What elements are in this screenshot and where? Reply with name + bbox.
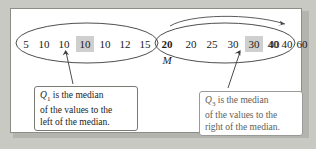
callout-q3-line2: of the values to the <box>205 110 297 122</box>
data-value-right-0: 20 <box>183 36 199 52</box>
data-value-right-6: 60 <box>294 36 310 52</box>
data-value-row: 5 10 10 10 10 12 15 20 20 25 30 30 40 40… <box>11 36 303 58</box>
callout-q3: Q3 is the median of the values to the ri… <box>199 91 303 136</box>
data-value-left-1: 10 <box>36 36 52 52</box>
callout-q3-line1: Q3 is the median <box>205 95 297 110</box>
data-value-right-2: 30 <box>225 36 241 52</box>
callout-q1: Q1 is the median of the values to the le… <box>34 86 138 131</box>
figure-panel: 5 10 10 10 10 12 15 20 20 25 30 30 40 40… <box>10 8 302 133</box>
data-value-right-4b: 40 <box>266 36 282 52</box>
median-value: 20 <box>159 36 175 52</box>
callout-q1-line3: left of the median. <box>40 117 132 129</box>
data-value-left-5: 12 <box>117 36 133 52</box>
q3-symbol: Q3 <box>205 95 215 105</box>
data-value-left-6: 15 <box>137 36 153 52</box>
data-value-left-0: 5 <box>19 36 33 52</box>
median-label: M <box>159 54 175 66</box>
callout-q1-line2: of the values to the <box>40 105 132 117</box>
callout-q3-line3: right of the median. <box>205 122 297 134</box>
q1-symbol: Q1 <box>40 90 50 100</box>
data-value-left-2: 10 <box>56 36 72 52</box>
data-value-right-1: 25 <box>204 36 220 52</box>
data-value-left-4: 10 <box>97 36 113 52</box>
quartile-figure: 5 10 10 10 10 12 15 20 20 25 30 30 40 40… <box>0 0 316 149</box>
data-value-left-3-highlighted: 10 <box>76 36 94 52</box>
data-value-right-3-highlighted: 30 <box>245 36 263 52</box>
callout-q1-line1: Q1 is the median <box>40 90 132 105</box>
